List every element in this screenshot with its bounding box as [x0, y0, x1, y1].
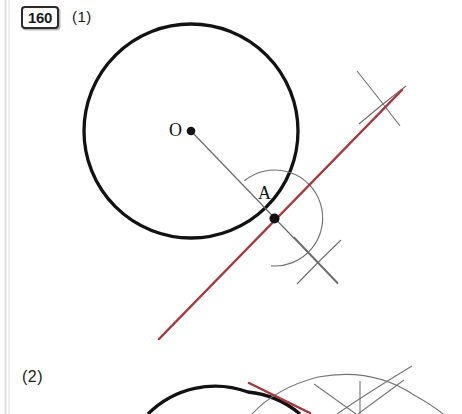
sub-item-label-1: (1)	[72, 8, 92, 25]
figure-2-group	[148, 366, 443, 414]
point-O-dot	[187, 127, 196, 136]
construction-ray-2-left	[314, 384, 356, 414]
construction-arc-2-cross	[337, 366, 412, 414]
construction-arc-lower-a	[294, 237, 338, 283]
tangent-line	[159, 90, 402, 339]
point-label-A: A	[258, 183, 271, 204]
point-label-O: O	[169, 120, 182, 141]
problem-number-badge: 160	[21, 6, 59, 29]
geometry-figures-canvas	[0, 0, 462, 414]
radius-line-OA	[191, 131, 338, 284]
circle-2-arc	[148, 386, 300, 414]
sub-item-label-2: (2)	[22, 368, 43, 386]
worksheet-page: 160 (1) (2) O A	[0, 0, 462, 414]
point-A-dot	[270, 214, 280, 224]
figure-1-group	[84, 24, 406, 339]
